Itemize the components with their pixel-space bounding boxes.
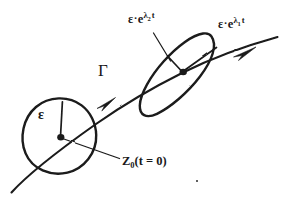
lambda2-exponent-index: 2 [148,15,151,22]
lambda2-leader-line [154,33,171,61]
lambda1-exponent-index: 1 [238,20,241,27]
lambda2-exponent: λ2t [143,10,153,20]
lambda2-exponent-lambda: λ [143,10,147,20]
arrowhead-mid [97,98,116,112]
lambda2-expansion-label: ε·eλ2t [128,13,154,26]
z0-label: Z0(t = 0) [122,155,167,168]
z0-subscript: 0 [130,160,134,170]
stray-period-mark [196,180,198,182]
epsilon-ball-label: ε [38,108,44,122]
lambda2-operator: · [133,12,138,24]
lambda1-exponent: λ1t [233,15,243,25]
lambda1-expansion-label: ε·eλ1t [218,18,244,31]
ball-radius-line [61,102,63,137]
lambda1-exponent-t: t [242,15,245,25]
lambda1-operator: · [223,17,228,29]
trajectory-gamma-label: Γ [98,62,108,79]
ellipsoid-center-dot [180,69,187,76]
ball-center-dot [57,134,64,140]
ellipse-minor-axis-marker [168,56,183,72]
z0-rest: (t = 0) [135,154,167,168]
figure-canvas: ε Γ Z0(t = 0) ε·eλ2t ε·eλ1t [0,0,287,197]
lambda1-exponent-lambda: λ [233,15,237,25]
lambda2-exponent-t: t [152,10,155,20]
